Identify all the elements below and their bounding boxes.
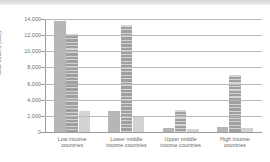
bar	[133, 116, 145, 132]
bar	[163, 128, 175, 132]
y-axis-tick	[41, 100, 45, 101]
x-axis-category-label-line: income countries	[154, 142, 208, 148]
y-axis-tick-label: 12,000	[24, 32, 41, 38]
x-axis-category-labels: Low incomecountriesLower middleincome co…	[45, 136, 262, 160]
x-axis-category-label: Low incomecountries	[45, 136, 99, 149]
gridline	[45, 67, 262, 68]
bar	[187, 129, 199, 132]
x-axis-category-label-line: income countries	[99, 142, 153, 148]
gridline	[45, 19, 262, 20]
y-axis-tick	[41, 35, 45, 36]
y-axis-tick-label: 4,000	[27, 97, 41, 103]
y-axis-tick-label: 8,000	[27, 64, 41, 70]
gridline	[45, 35, 262, 36]
y-axis-tick-label: 6,000	[27, 81, 41, 87]
x-axis-line	[45, 132, 262, 133]
y-axis-tick	[41, 116, 45, 117]
x-axis-category-label-line: countries	[45, 142, 99, 148]
bar	[241, 128, 253, 132]
gridline	[45, 100, 262, 101]
bar-chart: 02,0004,0006,0008,00010,00012,00014,000 …	[0, 0, 270, 162]
gridline	[45, 84, 262, 85]
y-axis-tick-label: 10,000	[24, 48, 41, 54]
bar	[79, 111, 91, 132]
y-axis-tick-label: 2,000	[27, 113, 41, 119]
page-top-band	[0, 0, 270, 5]
y-axis-tick	[41, 132, 45, 133]
y-axis-tick	[41, 51, 45, 52]
y-axis-tick	[41, 67, 45, 68]
y-axis-title: Total deaths (000)	[0, 31, 2, 76]
x-axis-category-label: High incomecountries	[208, 136, 262, 149]
gridline	[45, 116, 262, 117]
y-axis-tick-label: 14,000	[24, 16, 41, 22]
bar	[108, 111, 120, 132]
bar	[175, 110, 187, 132]
bar	[217, 127, 229, 132]
x-axis-category-label: Lower middleincome countries	[99, 136, 153, 149]
x-axis-category-label-line: countries	[208, 142, 262, 148]
plot-area	[45, 19, 262, 133]
y-axis-tick	[41, 19, 45, 20]
y-axis-tick-labels: 02,0004,0006,0008,00010,00012,00014,000	[0, 19, 41, 133]
gridline	[45, 51, 262, 52]
x-axis-category-label: Upper middleincome countries	[154, 136, 208, 149]
y-axis-tick	[41, 84, 45, 85]
